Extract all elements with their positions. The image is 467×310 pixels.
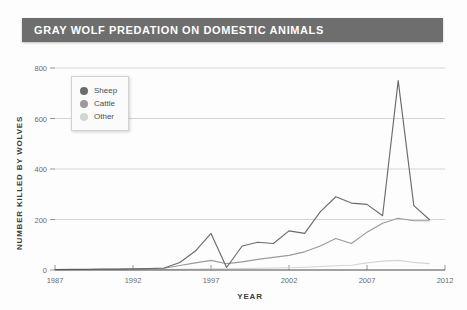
legend-swatch-cattle [80,100,88,108]
legend-swatch-other [80,113,88,121]
legend-label-cattle: Cattle [94,99,115,108]
x-tick-label: 2012 [437,276,454,285]
legend-label-sheep: Sheep [94,86,117,95]
y-tick-label: 400 [34,165,47,174]
y-tick-label: 800 [34,64,47,73]
chart-legend: Sheep Cattle Other [71,76,129,131]
legend-swatch-sheep [80,87,88,95]
legend-label-other: Other [94,112,114,121]
x-tick-label: 2002 [281,276,298,285]
plot-area: 0200400600800198719921997200220072012 NU… [0,0,467,310]
y-tick-label: 600 [34,115,47,124]
x-tick-label: 1992 [125,276,142,285]
legend-item-other: Other [80,110,117,123]
y-tick-label: 0 [43,266,47,275]
x-tick-label: 1987 [47,276,64,285]
legend-item-cattle: Cattle [80,97,117,110]
chart-page: GRAY WOLF PREDATION ON DOMESTIC ANIMALS … [0,0,467,310]
y-tick-label: 200 [34,216,47,225]
x-tick-label: 2007 [359,276,376,285]
x-axis-title: YEAR [237,292,262,301]
legend-item-sheep: Sheep [80,84,117,97]
y-axis-title: NUMBER KILLED BY WOLVES [15,116,24,250]
x-tick-label: 1997 [203,276,220,285]
line-chart-svg: 0200400600800198719921997200220072012 NU… [0,0,467,310]
